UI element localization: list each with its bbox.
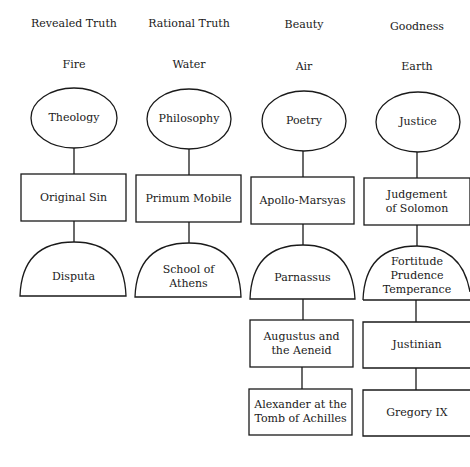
box1-apollo-marsyas: Apollo-Marsyas: [251, 177, 354, 224]
box-text: Primum Mobile: [145, 192, 231, 206]
faculty-philosophy: Philosophy: [147, 105, 231, 133]
box-text: Original Sin: [40, 191, 107, 205]
faculty-text: Poetry: [286, 114, 322, 128]
virtue-label: Goodness: [357, 20, 470, 33]
box-text: Augustus and the Aeneid: [263, 330, 339, 358]
box-text: Apollo-Marsyas: [259, 194, 345, 208]
arch-text-virtues: Fortitude Prudence Temperance: [364, 252, 470, 300]
element-label: Fire: [14, 58, 134, 71]
faculty-justice: Justice: [376, 108, 460, 136]
arch-text-school-of-athens: School of Athens: [136, 257, 241, 297]
arch-text: Parnassus: [274, 271, 330, 285]
box1-judgement: Judgement of Solomon: [364, 178, 470, 225]
box3-gregory: Gregory IX: [364, 390, 470, 436]
box-text: Gregory IX: [386, 406, 447, 420]
box2-augustus: Augustus and the Aeneid: [250, 320, 353, 367]
faculty-text: Theology: [49, 111, 100, 125]
arch-text: Fortitude Prudence Temperance: [383, 255, 452, 297]
faculty-poetry: Poetry: [262, 107, 346, 135]
arch-text: Disputa: [52, 270, 95, 284]
faculty-theology: Theology: [31, 104, 117, 132]
arch-text: School of Athens: [163, 263, 215, 291]
box1-primum-mobile: Primum Mobile: [136, 175, 241, 222]
element-label: Water: [129, 58, 249, 71]
box-text: Judgement of Solomon: [386, 188, 449, 216]
virtue-label: Beauty: [244, 18, 364, 31]
element-label: Earth: [357, 60, 470, 73]
virtue-label: Revealed Truth: [14, 17, 134, 30]
faculty-text: Philosophy: [159, 112, 220, 126]
box-text: Alexander at the Tomb of Achilles: [254, 398, 347, 426]
faculty-text: Justice: [399, 115, 437, 129]
arch-text-disputa: Disputa: [21, 262, 126, 292]
box-text: Justinian: [392, 338, 441, 352]
virtue-label: Rational Truth: [129, 17, 249, 30]
element-label: Air: [244, 60, 364, 73]
box2-justinian: Justinian: [364, 322, 470, 368]
box3-alexander: Alexander at the Tomb of Achilles: [249, 389, 352, 435]
box1-original-sin: Original Sin: [21, 174, 126, 221]
arch-text-parnassus: Parnassus: [251, 262, 354, 294]
